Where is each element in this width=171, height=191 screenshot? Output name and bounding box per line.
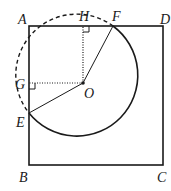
label-c: C	[157, 170, 167, 185]
label-o: O	[84, 86, 94, 101]
center-point-o	[81, 81, 85, 85]
geometry-diagram: A H F D G O E B C	[0, 0, 171, 191]
circle-arc-dashed	[16, 14, 113, 113]
right-angle-g	[29, 83, 35, 89]
label-e: E	[15, 115, 25, 130]
segment-oe	[29, 83, 83, 113]
square-abcd	[29, 26, 163, 165]
segment-of	[83, 26, 113, 83]
label-f: F	[111, 9, 121, 24]
label-d: D	[159, 12, 170, 27]
label-h: H	[78, 9, 90, 24]
label-b: B	[19, 170, 28, 185]
label-g: G	[15, 77, 25, 92]
right-angle-h	[83, 26, 89, 32]
label-a: A	[17, 12, 27, 27]
